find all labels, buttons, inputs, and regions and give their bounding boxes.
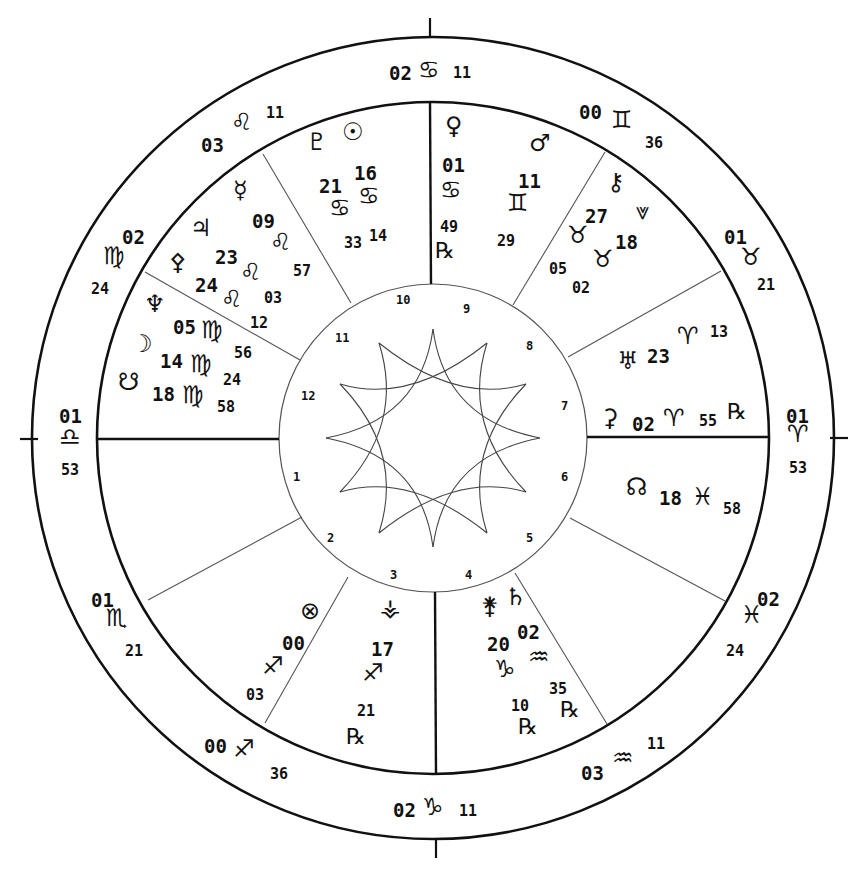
house-number-11: 11 — [335, 332, 349, 344]
house-number-5: 5 — [526, 532, 533, 544]
house-number-1: 1 — [293, 471, 300, 483]
cusp5-minutes: 11 — [647, 737, 665, 752]
neptune-minutes: 56 — [234, 346, 252, 361]
sagittarius-sign-icon: ♐ — [233, 737, 255, 761]
mars-icon: ♂ — [529, 131, 551, 155]
venus-retrograde-icon: ℞ — [435, 240, 455, 262]
saturn-sign-icon: ♒ — [528, 645, 550, 669]
ic-degree: 02 — [393, 801, 416, 820]
cusp6-minutes: 24 — [726, 644, 744, 659]
saturn-degree: 02 — [517, 623, 540, 642]
saturn-icon: ♄ — [505, 585, 527, 609]
capricorn-sign-icon: ♑ — [422, 795, 444, 819]
aries-sign-icon: ♈ — [787, 422, 809, 446]
part-of-fortune-sign-icon: ♐ — [262, 654, 284, 678]
sun-sign-icon: ♋ — [358, 184, 380, 208]
sun-degree: 16 — [354, 164, 377, 183]
mercury-icon: ☿ — [233, 178, 248, 202]
venus-minutes: 49 — [440, 220, 458, 235]
scorpio-sign-icon: ♏ — [106, 606, 128, 630]
house-number-6: 6 — [561, 471, 568, 483]
vertex-minutes: 02 — [572, 281, 590, 296]
leo-sign-icon: ♌ — [231, 110, 253, 134]
part-of-fortune-minutes: 03 — [246, 688, 264, 703]
ceres-degree: 02 — [632, 415, 655, 434]
venus-sign-icon: ♋ — [440, 178, 462, 202]
south-node-icon: ☋ — [118, 370, 139, 394]
jupiter-minutes: 03 — [264, 291, 282, 306]
mc-minutes: 11 — [453, 66, 471, 81]
south-node-minutes: 58 — [217, 400, 235, 415]
saturn-minutes: 35 — [549, 682, 567, 697]
cusp3-degree: 00 — [204, 737, 227, 756]
house-number-3: 3 — [390, 569, 397, 581]
vesta-sign-icon: ♐ — [362, 661, 384, 685]
chiron-minutes: 05 — [549, 262, 567, 277]
house-number-10: 10 — [396, 294, 410, 306]
mercury-sign-icon: ♌ — [270, 230, 292, 254]
pisces-sign-icon: ♓ — [741, 603, 763, 627]
moon-icon: ☽ — [131, 332, 153, 356]
juno-icon: ⚵ — [481, 594, 499, 618]
mercury-minutes: 57 — [293, 264, 311, 279]
uranus-icon: ♅ — [617, 349, 639, 373]
chiron-icon: ⚷ — [607, 170, 625, 194]
vesta-degree: 17 — [371, 640, 394, 659]
pallas-degree: 24 — [195, 276, 218, 295]
south-node-sign-icon: ♍ — [182, 383, 204, 407]
sun-icon: ☉ — [342, 120, 364, 144]
house-number-4: 4 — [465, 569, 472, 581]
cusp9-degree: 00 — [579, 103, 602, 122]
ceres-sign-icon: ♈ — [663, 406, 685, 430]
juno-minutes: 10 — [511, 699, 529, 714]
house-number-12: 12 — [301, 390, 315, 402]
virgo-sign-icon: ♍ — [103, 244, 125, 268]
jupiter-icon: ♃ — [190, 216, 212, 240]
cusp-2 — [148, 517, 302, 600]
cusp12-minutes: 24 — [91, 282, 109, 297]
saturn-retrograde-icon: ℞ — [560, 699, 580, 721]
cusp3-minutes: 36 — [270, 767, 288, 782]
cusp12-degree: 02 — [122, 228, 145, 247]
aquarius-sign-icon: ♒ — [612, 746, 634, 770]
house-number-8: 8 — [526, 340, 533, 352]
pluto-minutes: 33 — [344, 236, 362, 251]
vertex-degree: 18 — [615, 233, 638, 252]
ceres-icon: ⚳ — [601, 406, 619, 430]
south-node-degree: 18 — [152, 385, 175, 404]
asc-minutes: 53 — [61, 463, 79, 478]
ceres-minutes: 55 — [699, 414, 717, 429]
pluto-sign-icon: ♋ — [329, 196, 351, 220]
house-number-7: 7 — [561, 400, 568, 412]
juno-sign-icon: ♑ — [494, 657, 516, 681]
chiron-sign-icon: ♉ — [567, 223, 589, 247]
gemini-sign-icon: ♊ — [611, 108, 633, 132]
ic-minutes: 11 — [459, 804, 477, 819]
pallas-minutes: 12 — [250, 316, 268, 331]
ic-axis — [435, 592, 436, 774]
taurus-sign-icon: ♉ — [740, 245, 762, 269]
chart-wheel — [0, 0, 864, 876]
libra-sign-icon: ♎ — [59, 425, 81, 449]
mc-axis — [430, 102, 431, 284]
vesta-icon: ⚶ — [380, 596, 400, 620]
vesta-minutes: 21 — [357, 704, 375, 719]
venus-degree: 01 — [442, 156, 465, 175]
moon-degree: 14 — [160, 352, 183, 371]
north-node-minutes: 58 — [723, 502, 741, 517]
cusp8-minutes: 21 — [757, 278, 775, 293]
pallas-sign-icon: ♌ — [221, 287, 243, 311]
neptune-sign-icon: ♍ — [201, 318, 223, 342]
cusp11-degree: 03 — [201, 136, 224, 155]
moon-sign-icon: ♍ — [190, 352, 212, 376]
cusp2-minutes: 21 — [125, 644, 143, 659]
uranus-sign-icon: ♈ — [677, 324, 699, 348]
mars-sign-icon: ♊ — [507, 191, 529, 215]
vertex-icon: ⩔ — [636, 199, 650, 223]
north-node-icon: ☊ — [626, 475, 647, 499]
juno-retrograde-icon: ℞ — [518, 716, 538, 738]
cusp5-degree: 03 — [581, 764, 604, 783]
part-of-fortune-icon: ⊗ — [300, 599, 320, 623]
uranus-degree: 23 — [647, 347, 670, 366]
venus-icon: ♀ — [445, 114, 463, 138]
